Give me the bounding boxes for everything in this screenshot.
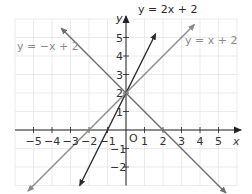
x-tick-label: 2 <box>160 135 167 148</box>
y-tick-label: 2 <box>116 87 123 100</box>
x-tick-label: −4 <box>44 135 60 148</box>
label-y-2x-plus-2: y = 2x + 2 <box>138 3 197 16</box>
x-tick-label: −5 <box>26 135 42 148</box>
label-y-neg-x-plus-2: y = −x + 2 <box>17 40 79 53</box>
y-tick-label: 1 <box>116 106 123 119</box>
x-tick-label: 5 <box>215 135 222 148</box>
y-axis-label: y <box>115 12 123 25</box>
line-labels: y = 2x + 2 y = x + 2 y = −x + 2 y x O <box>17 3 240 148</box>
x-tick-label: 3 <box>178 135 185 148</box>
x-tick-label: −2 <box>81 135 97 148</box>
y-tick-label: 4 <box>116 50 123 63</box>
x-tick-label: 1 <box>141 135 148 148</box>
origin-label: O <box>129 132 138 145</box>
y-tick-label: −2 <box>110 161 126 174</box>
x-tick-label: −3 <box>63 135 79 148</box>
label-y-x-plus-2: y = x + 2 <box>185 34 237 47</box>
y-tick-label: 5 <box>116 32 123 45</box>
linear-graphs-chart: −5−4−3−2−112345−2−112345 y = 2x + 2 y = … <box>0 0 252 194</box>
y-tick-label: −1 <box>110 143 126 156</box>
y-tick-label: 3 <box>116 69 123 82</box>
x-tick-label: 4 <box>197 135 204 148</box>
x-axis-label: x <box>232 135 240 148</box>
line-3 <box>61 28 226 193</box>
